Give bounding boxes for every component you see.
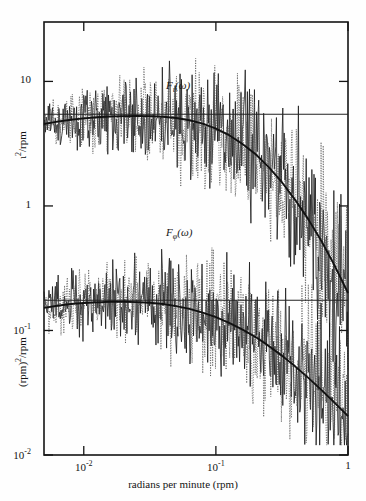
x-axis-title: radians per minute (rpm): [0, 478, 366, 490]
x-tick-label-0.1: 10-1: [200, 459, 232, 473]
y-tick-label-0.1: 10-1: [0, 322, 31, 336]
x-tick-label-0.01: 10-2: [68, 459, 100, 473]
y-axis-title-lower: (rpm)2/rpm: [14, 337, 28, 387]
chart-canvas: [0, 0, 366, 501]
y-tick-label-10: 10: [0, 73, 31, 85]
lower-spectrum-label: Fφ(ω): [166, 226, 192, 241]
y-axis-title-upper: ι2/rpm: [14, 131, 28, 159]
chart-background: [0, 0, 366, 501]
figure-container: 10 1 10-1 10-2 10-2 10-1 1 radians per m…: [0, 0, 366, 501]
y-tick-label-0.01: 10-2: [0, 447, 31, 461]
x-tick-label-1: 1: [332, 459, 364, 471]
upper-spectrum-label: Fι(ω): [166, 79, 190, 94]
y-tick-label-1: 1: [0, 198, 31, 210]
